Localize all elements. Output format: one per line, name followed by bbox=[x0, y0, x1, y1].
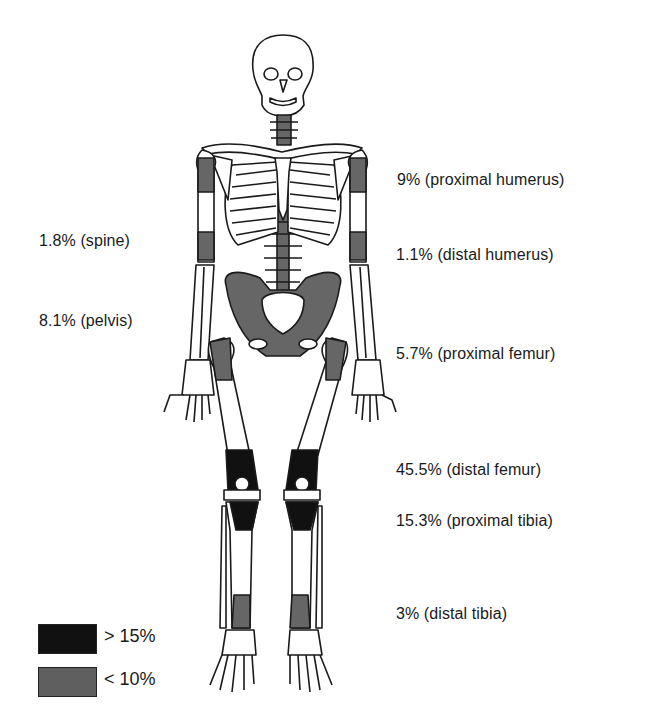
femur-right-side-of-image bbox=[208, 338, 258, 490]
legend-label-high: > 15% bbox=[104, 626, 156, 647]
label-proximal-tibia: 15.3% (proximal tibia) bbox=[396, 512, 553, 530]
humerus-right-side-of-image bbox=[197, 150, 216, 262]
humerus-left-side-of-image bbox=[349, 150, 368, 262]
label-distal-humerus: 1.1% (distal humerus) bbox=[396, 246, 554, 264]
skull bbox=[253, 35, 314, 116]
tibia-right-side-of-image bbox=[220, 502, 258, 628]
label-distal-femur: 45.5% (distal femur) bbox=[396, 461, 541, 479]
label-spine: 1.8% (spine) bbox=[39, 232, 130, 250]
femur-left-side-of-image bbox=[286, 338, 348, 490]
legend-label-low: < 10% bbox=[104, 669, 156, 690]
tibia-left-side-of-image bbox=[286, 502, 322, 628]
legend-swatch-low bbox=[38, 667, 97, 697]
legend-swatch-high bbox=[38, 624, 97, 654]
label-distal-tibia: 3% (distal tibia) bbox=[396, 605, 507, 623]
label-proximal-humerus: 9% (proximal humerus) bbox=[397, 171, 564, 189]
label-proximal-femur: 5.7% (proximal femur) bbox=[396, 345, 555, 363]
label-pelvis: 8.1% (pelvis) bbox=[39, 312, 133, 330]
